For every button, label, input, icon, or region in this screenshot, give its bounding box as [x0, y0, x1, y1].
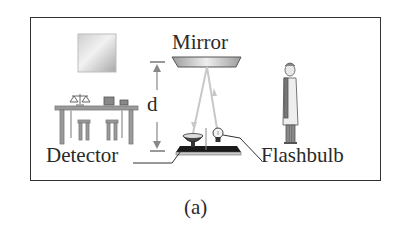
flashbulb-label: Flashbulb: [261, 145, 344, 166]
flashbulb-icon: [213, 128, 223, 142]
light-rays: [191, 67, 218, 135]
detector-label: Detector: [46, 145, 118, 166]
lab-table-icon: [55, 94, 138, 144]
base-plate: [176, 146, 241, 155]
figure-caption: (a): [184, 195, 207, 220]
wall-picture: [78, 34, 116, 72]
mirror-label: Mirror: [172, 32, 228, 53]
distance-label: d: [147, 94, 158, 115]
observer-icon: [283, 63, 298, 143]
detector-icon: [183, 134, 203, 148]
mirror-icon: [172, 57, 241, 67]
